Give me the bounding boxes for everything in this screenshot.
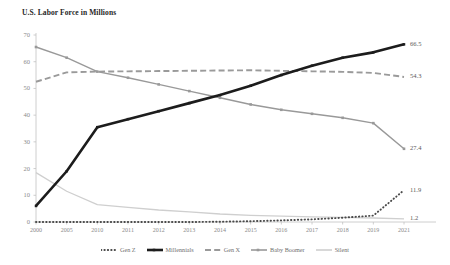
chart-container: U.S. Labor Force in Millions 01020304050…: [0, 0, 450, 265]
series-marker: [127, 76, 130, 79]
series-marker: [341, 117, 344, 120]
legend-item-millennials[interactable]: Millennials: [147, 246, 194, 253]
series-end-label-gen-x: 54.3: [410, 72, 421, 79]
series-marker: [65, 56, 68, 59]
x-axis-tick-label: 2010: [83, 227, 111, 233]
x-axis-tick-label: 2005: [53, 227, 81, 233]
series-line-gen-z: [36, 190, 404, 222]
series-marker: [403, 43, 406, 46]
x-axis-tick-label: 2014: [206, 227, 234, 233]
series-end-label-gen-z: 11.9: [410, 186, 421, 193]
series-marker: [188, 90, 191, 93]
x-axis-tick-label: 2011: [114, 227, 142, 233]
series-marker: [372, 51, 375, 54]
y-axis-tick-label: 30: [14, 138, 30, 145]
series-marker: [219, 94, 222, 97]
x-axis-tick-label: 2000: [22, 227, 50, 233]
x-axis-tick-label: 2017: [298, 227, 326, 233]
x-axis-tick-label: 2021: [390, 227, 418, 233]
legend-swatch-icon: [147, 247, 163, 253]
series-marker: [403, 148, 406, 151]
series-marker: [249, 85, 252, 88]
series-marker: [157, 83, 160, 86]
series-marker: [280, 109, 283, 112]
x-axis-tick-label: 2018: [329, 227, 357, 233]
legend-item-silent[interactable]: Silent: [316, 246, 349, 253]
legend-swatch-icon: [101, 247, 117, 253]
legend-item-baby-boomer[interactable]: Baby Boomer: [251, 246, 305, 253]
series-marker: [96, 70, 99, 73]
chart-plot-area: [0, 0, 450, 265]
legend-swatch-icon: [251, 247, 267, 253]
series-line-silent: [36, 173, 404, 219]
legend-label: Silent: [335, 246, 349, 253]
y-axis-tick-label: 10: [14, 191, 30, 198]
legend-label: Millennials: [166, 246, 194, 253]
y-axis-tick-label: 50: [14, 84, 30, 91]
series-marker: [127, 118, 130, 121]
series-line-gen-x: [36, 70, 404, 81]
x-axis-tick-label: 2016: [267, 227, 295, 233]
series-marker: [96, 126, 99, 128]
y-axis-tick-label: 0: [14, 218, 30, 225]
series-marker: [311, 113, 314, 116]
legend-item-gen-z[interactable]: Gen Z: [101, 246, 136, 253]
series-marker: [249, 103, 252, 106]
series-marker: [35, 205, 38, 208]
series-end-label-baby-boomer: 27.4: [410, 144, 421, 151]
series-end-label-millennials: 66.5: [410, 40, 421, 47]
y-axis-tick-label: 70: [14, 31, 30, 38]
legend-swatch-icon: [205, 247, 221, 253]
series-marker: [280, 74, 283, 77]
series-marker: [188, 102, 191, 105]
series-marker: [341, 56, 344, 59]
legend-swatch-icon: [316, 247, 332, 253]
x-axis-tick-label: 2012: [145, 227, 173, 233]
legend-item-gen-x[interactable]: Gen X: [205, 246, 240, 253]
legend-label: Baby Boomer: [270, 246, 305, 253]
legend-label: Gen X: [224, 246, 240, 253]
series-marker: [157, 110, 160, 113]
series-marker: [35, 46, 38, 49]
y-axis-tick-label: 20: [14, 165, 30, 172]
series-marker: [372, 122, 375, 125]
legend-label: Gen Z: [120, 246, 136, 253]
series-marker: [65, 170, 68, 173]
y-axis-tick-label: 40: [14, 111, 30, 118]
chart-legend: Gen ZMillennialsGen XBaby BoomerSilent: [0, 246, 450, 253]
x-axis-tick-label: 2013: [175, 227, 203, 233]
y-axis-tick-label: 60: [14, 58, 30, 65]
series-marker: [311, 64, 314, 67]
x-axis-tick-label: 2019: [359, 227, 387, 233]
series-end-label-silent: 1.2: [410, 214, 418, 221]
x-axis-tick-label: 2015: [237, 227, 265, 233]
series-marker: [219, 96, 222, 99]
